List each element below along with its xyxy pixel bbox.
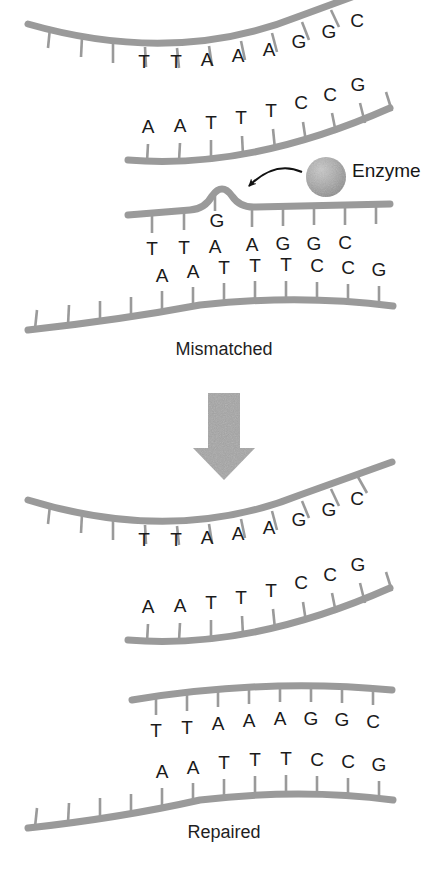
base-letter: T	[235, 587, 247, 608]
dna-mismatch-repair-figure: T T A A A G G C A A T T T C	[0, 0, 447, 869]
base-letter: A	[187, 261, 200, 282]
base-letter: A	[201, 527, 214, 548]
base-letter: A	[232, 523, 245, 544]
base-letter: T	[138, 51, 150, 72]
base-letter: A	[274, 708, 287, 729]
base-letter: A	[174, 595, 187, 616]
base-letter: A	[187, 757, 200, 778]
base-letter: G	[351, 554, 366, 575]
base-letter: C	[310, 749, 324, 770]
base-letter: G	[351, 74, 366, 95]
repaired-panel-label: Repaired	[187, 822, 260, 842]
base-letter: A	[209, 236, 222, 257]
mismatched-panel-label: Mismatched	[175, 339, 272, 359]
enzyme-label: Enzyme	[352, 160, 421, 181]
base-letter: T	[280, 254, 292, 275]
base-letter: A	[263, 517, 276, 538]
base-letter: T	[170, 529, 182, 550]
base-letter: T	[235, 107, 247, 128]
base-letter: T	[205, 592, 217, 613]
base-letter: G	[335, 709, 350, 730]
base-letter: T	[170, 51, 182, 72]
base-letter: C	[341, 257, 355, 278]
base-letter: G	[322, 499, 337, 520]
base-letter: C	[294, 572, 308, 593]
base-letter: C	[341, 751, 355, 772]
base-letter: C	[323, 84, 337, 105]
base-letter: C	[310, 255, 324, 276]
base-letter: A	[156, 761, 169, 782]
base-letter: A	[156, 265, 169, 286]
enzyme-icon	[306, 157, 346, 197]
base-letter: T	[178, 237, 190, 258]
base-letter: A	[212, 713, 225, 734]
base-letter: C	[323, 564, 337, 585]
base-letter: A	[243, 710, 256, 731]
base-letter: C	[338, 232, 352, 253]
base-letter: T	[146, 238, 158, 259]
base-letter: T	[218, 752, 230, 773]
base-letter: A	[174, 115, 187, 136]
base-letter: A	[246, 234, 259, 255]
base-letter: G	[304, 708, 319, 729]
base-letter: T	[205, 112, 217, 133]
base-letter: G	[372, 754, 387, 775]
base-letter: T	[265, 100, 277, 121]
base-letter: T	[249, 749, 261, 770]
base-letter: T	[265, 580, 277, 601]
base-letter: A	[201, 49, 214, 70]
base-letter: T	[150, 720, 162, 741]
base-letter: G	[307, 233, 322, 254]
mismatched-base-letter: G	[210, 210, 225, 231]
figure-canvas: T T A A A G G C A A T T T C	[0, 0, 447, 869]
base-letter: A	[142, 596, 155, 617]
base-letter: T	[218, 257, 230, 278]
base-letter: A	[263, 39, 276, 60]
base-letter: C	[350, 488, 364, 509]
base-letter: C	[350, 10, 364, 31]
base-letter: G	[292, 509, 307, 530]
base-letter: T	[181, 717, 193, 738]
base-letter: G	[372, 259, 387, 280]
base-letter: T	[138, 529, 150, 550]
base-letter: C	[366, 711, 380, 732]
base-letter: A	[142, 116, 155, 137]
base-letter: G	[292, 31, 307, 52]
base-letter: A	[232, 45, 245, 66]
base-letter: T	[280, 748, 292, 769]
base-letter: G	[322, 21, 337, 42]
base-letter: T	[249, 255, 261, 276]
base-letter: G	[276, 233, 291, 254]
base-letter: C	[294, 92, 308, 113]
